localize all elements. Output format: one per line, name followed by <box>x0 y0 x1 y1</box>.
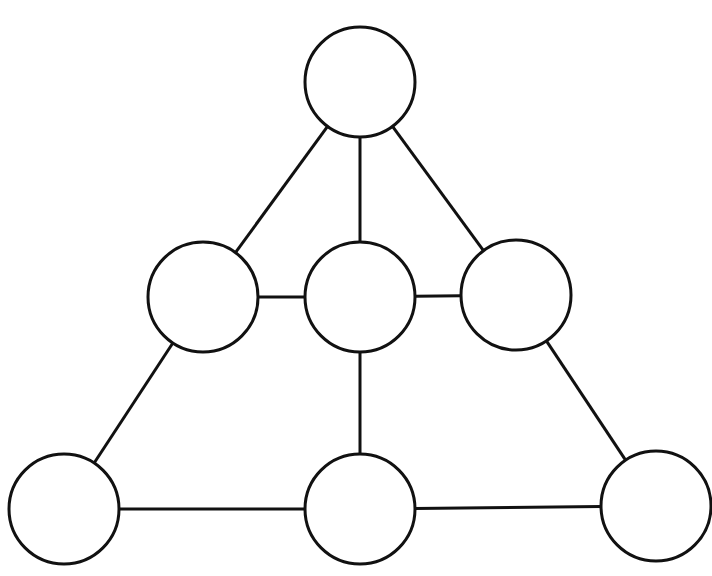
edge-top-mid-right <box>392 126 483 250</box>
node-top <box>305 27 415 137</box>
node-bottom-center <box>305 454 415 564</box>
node-mid-center <box>305 242 415 352</box>
node-bottom-right <box>601 451 711 561</box>
edge-bottom-center-bottom-right <box>415 507 601 509</box>
edge-top-mid-left <box>235 126 327 252</box>
edge-mid-center-mid-right <box>415 296 461 297</box>
node-mid-right <box>461 240 571 350</box>
edge-mid-left-bottom-left <box>94 343 173 463</box>
node-mid-left <box>148 242 258 352</box>
node-group <box>9 27 711 564</box>
edge-mid-right-bottom-right <box>546 341 625 460</box>
triangle-graph-diagram <box>0 0 712 576</box>
node-bottom-left <box>9 454 119 564</box>
